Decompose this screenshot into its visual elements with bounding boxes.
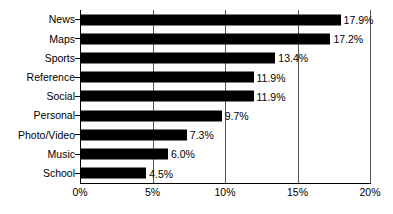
category-label: Reference bbox=[0, 72, 75, 83]
x-tick-label: 15% bbox=[287, 187, 308, 198]
category-label: News bbox=[0, 14, 75, 25]
y-axis-tick-mark bbox=[75, 96, 80, 97]
bar bbox=[81, 110, 222, 121]
bar-rows: News17.9%Maps17.2%Sports13.4%Reference11… bbox=[0, 10, 393, 183]
y-axis-tick-mark bbox=[75, 58, 80, 59]
bar bbox=[81, 14, 341, 25]
bar-row: Social11.9% bbox=[0, 87, 393, 106]
category-label: School bbox=[0, 168, 75, 179]
y-axis-tick-mark bbox=[75, 77, 80, 78]
bar bbox=[81, 53, 275, 64]
category-label: Personal bbox=[0, 110, 75, 121]
bar-value-label: 9.7% bbox=[225, 110, 249, 121]
x-axis-tick-labels: 0%5%10%15%20% bbox=[0, 187, 393, 207]
y-axis-tick-mark bbox=[75, 154, 80, 155]
category-label: Music bbox=[0, 149, 75, 160]
category-label: Social bbox=[0, 91, 75, 102]
bar bbox=[81, 129, 187, 140]
bar-row: Music6.0% bbox=[0, 145, 393, 164]
category-label: Photo/Video bbox=[0, 130, 75, 141]
bar-row: Sports13.4% bbox=[0, 48, 393, 67]
bar-row: Maps17.2% bbox=[0, 29, 393, 48]
category-label: Maps bbox=[0, 34, 75, 45]
bar-row: Reference11.9% bbox=[0, 68, 393, 87]
y-axis-tick-mark bbox=[75, 19, 80, 20]
bar-value-label: 11.9% bbox=[257, 91, 286, 102]
x-tick-label: 20% bbox=[359, 187, 380, 198]
bar-value-label: 13.4% bbox=[278, 53, 308, 64]
bar bbox=[81, 72, 254, 83]
x-tick-label: 10% bbox=[214, 187, 235, 198]
bar bbox=[81, 168, 146, 179]
bar-value-label: 6.0% bbox=[171, 149, 195, 160]
y-axis-tick-mark bbox=[75, 134, 80, 135]
y-axis-tick-mark bbox=[75, 38, 80, 39]
bar-value-label: 11.9% bbox=[257, 72, 286, 83]
bar bbox=[81, 91, 254, 102]
bar bbox=[81, 149, 168, 160]
bar-row: Personal9.7% bbox=[0, 106, 393, 125]
bar-row: School4.5% bbox=[0, 164, 393, 183]
bar-value-label: 17.9% bbox=[344, 14, 374, 25]
x-tick-label: 5% bbox=[145, 187, 160, 198]
x-tick-label: 0% bbox=[72, 187, 87, 198]
y-axis-tick-mark bbox=[75, 115, 80, 116]
category-label: Sports bbox=[0, 53, 75, 64]
x-axis-line bbox=[80, 183, 371, 184]
bar-value-label: 4.5% bbox=[149, 168, 173, 179]
bar-row: Photo/Video7.3% bbox=[0, 125, 393, 144]
bar-row: News17.9% bbox=[0, 10, 393, 29]
bar bbox=[81, 33, 330, 44]
y-axis-tick-mark bbox=[75, 173, 80, 174]
bar-value-label: 7.3% bbox=[190, 130, 214, 141]
bar-value-label: 17.2% bbox=[333, 34, 363, 45]
bar-chart: News17.9%Maps17.2%Sports13.4%Reference11… bbox=[0, 0, 393, 214]
